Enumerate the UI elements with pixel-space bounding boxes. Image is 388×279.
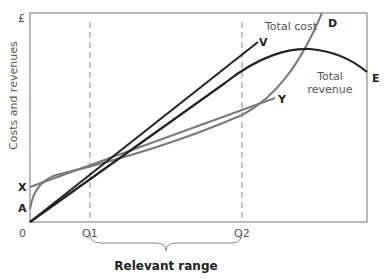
point-v-label: V [259,36,268,49]
plot-frame [30,13,367,222]
total-revenue-label-line2: revenue [307,83,352,96]
linear-cost-line-xy [30,98,275,187]
total-cost-curve [30,13,322,209]
point-d-label: D [328,17,337,30]
point-e-label: E [372,72,380,85]
q2-label: Q2 [234,227,250,240]
total-revenue-label-line1: Total [316,70,343,83]
point-x-label: X [18,181,27,194]
y-axis-label: Costs and revenues [7,41,20,150]
relevant-range-label: Relevant range [114,259,217,273]
break-even-chart: £ Costs and revenues 0 Q1 Q2 Relevant ra… [0,0,388,279]
relevant-range-bracket [90,233,242,251]
currency-symbol: £ [18,12,25,25]
total-cost-label: Total cost [264,20,318,33]
q1-label: Q1 [82,227,98,240]
point-a-label: A [18,202,27,215]
origin-label: 0 [19,227,26,240]
point-y-label: Y [277,93,287,106]
linear-revenue-line-v [30,42,258,222]
